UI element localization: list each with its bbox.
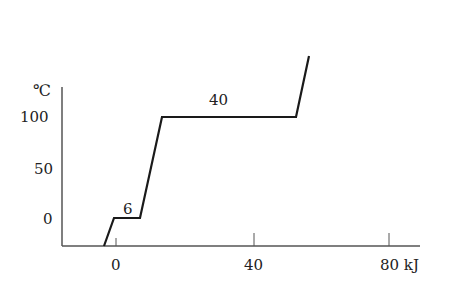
y-tick-label-50: 50 xyxy=(34,162,53,177)
annotation-boil-plateau: 40 xyxy=(209,93,228,108)
y-axis-unit: ℃ xyxy=(33,83,51,99)
heating-curve xyxy=(104,56,309,246)
chart-canvas xyxy=(0,0,453,291)
y-tick-label-100: 100 xyxy=(20,110,49,125)
x-tick-label-40: 40 xyxy=(244,258,263,273)
x-tick-label-80: 80 kJ xyxy=(380,258,419,273)
x-tick-label-0: 0 xyxy=(111,258,121,273)
y-tick-label-0: 0 xyxy=(43,212,53,227)
annotation-melt-plateau: 6 xyxy=(123,202,133,217)
